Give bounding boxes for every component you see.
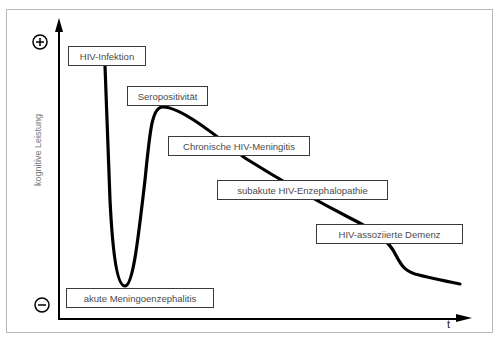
plus-circle-icon	[33, 35, 47, 49]
stage-akute-meningoenzephalitis: akute Meningoenzephalitis	[66, 288, 214, 308]
minus-circle-icon	[35, 298, 49, 312]
stage-seropositivitaet: Seropositivität	[127, 86, 208, 106]
stage-chronische-meningitis: Chronische HIV-Meningitis	[168, 136, 310, 156]
y-axis-label: kognitive Leistung	[33, 114, 43, 186]
y-axis	[55, 18, 63, 319]
stage-assoziierte-demenz: HIV-assoziierte Demenz	[316, 224, 463, 244]
x-axis	[58, 314, 472, 322]
x-axis-label: t	[447, 318, 450, 330]
stage-hiv-infektion: HIV-Infektion	[68, 46, 146, 66]
stage-subakute-enzephalopathie: subakute HIV-Enzephalopathie	[217, 180, 388, 200]
